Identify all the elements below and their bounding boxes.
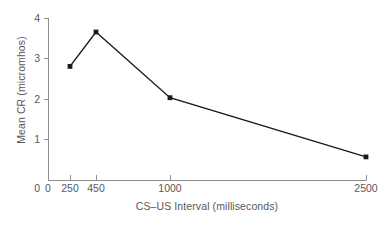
plot-area (0, 0, 392, 227)
data-point-markers (68, 30, 369, 160)
data-point-450 (94, 30, 99, 35)
x-axis-title: CS–US Interval (milliseconds) (48, 200, 366, 213)
data-point-250 (68, 64, 73, 69)
data-series-line (70, 32, 366, 157)
line-chart-figure: Mean CR (micromhos) 4 3 2 1 0 0 250 450 … (0, 0, 392, 227)
y-axis-ticks (44, 19, 48, 140)
data-point-2500 (364, 155, 369, 160)
data-point-1000 (168, 95, 173, 100)
x-axis-ticks (71, 175, 367, 180)
